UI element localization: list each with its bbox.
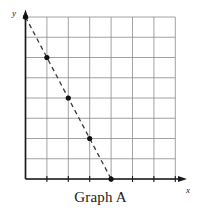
y-axis xyxy=(23,10,29,180)
y-axis-label: y xyxy=(11,8,16,18)
data-point xyxy=(109,176,114,181)
figure-caption: Graph A xyxy=(0,188,201,206)
graph-figure: y x Graph A xyxy=(0,0,201,212)
data-point xyxy=(23,14,28,19)
grid-horizontal-lines xyxy=(26,17,176,179)
data-point xyxy=(66,95,71,100)
data-point xyxy=(87,136,92,141)
data-point xyxy=(44,55,49,60)
x-axis xyxy=(26,176,188,182)
graph-canvas: y x xyxy=(0,0,201,212)
